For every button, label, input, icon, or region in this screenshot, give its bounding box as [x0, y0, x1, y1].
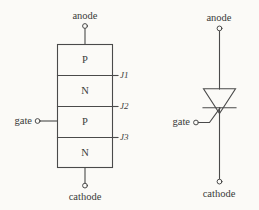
symbol-cathode-terminal-dot [217, 179, 222, 184]
symbol-gate-label: gate [173, 117, 191, 128]
layer-label-n1: N [81, 86, 89, 97]
structure-anode-terminal-dot [83, 24, 88, 29]
symbol-gate-terminal-dot [194, 120, 199, 125]
junction-label-j2: J2 [120, 102, 129, 111]
structure-gate-label: gate [15, 116, 33, 127]
structure-cathode-label: cathode [69, 192, 102, 203]
junction-label-j1: J1 [120, 71, 129, 80]
structure-cathode-terminal-dot [83, 183, 88, 188]
thyristor-figure: anode P N P N J1 J2 J3 gate cathode anod… [0, 0, 259, 210]
layer-label-n2: N [81, 148, 89, 159]
structure-anode-label: anode [72, 11, 97, 22]
layer-label-p2: P [82, 117, 88, 128]
layer-label-p1: P [82, 55, 88, 66]
symbol-anode-terminal-dot [217, 26, 222, 31]
junction-label-j3: J3 [120, 133, 129, 142]
figure-linework [0, 0, 259, 210]
symbol-cathode-label: cathode [203, 189, 236, 200]
structure-gate-terminal-dot [35, 119, 40, 124]
symbol-anode-label: anode [206, 13, 231, 24]
